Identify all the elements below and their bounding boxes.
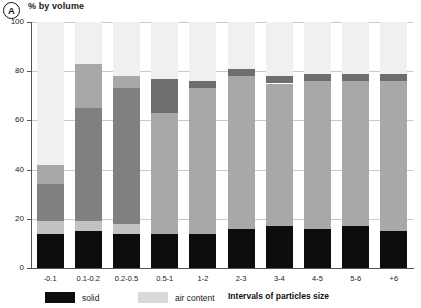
bar-segment <box>37 22 64 165</box>
y-tick-mark <box>27 268 32 269</box>
x-axis-title: Intervals of particles size <box>228 291 329 301</box>
bar-segment <box>75 22 102 64</box>
bar-segment <box>342 81 369 226</box>
bar-segment <box>228 229 255 268</box>
bar-column[interactable] <box>37 22 64 268</box>
y-tick-label: 40 <box>0 166 24 174</box>
bar-segment <box>113 88 140 223</box>
y-tick-label: 0 <box>0 264 24 272</box>
legend-swatch <box>138 292 168 303</box>
bar-segment <box>189 88 216 233</box>
bar-segment <box>304 22 331 74</box>
bar-segment <box>189 81 216 88</box>
x-tick-label: 1-2 <box>183 275 223 283</box>
bar-column[interactable] <box>151 22 178 268</box>
bar-segment <box>37 165 64 185</box>
y-tick-mark <box>27 170 32 171</box>
bar-segment <box>37 234 64 268</box>
bar-segment <box>380 81 407 231</box>
bar-segment <box>342 226 369 268</box>
x-tick-label: 2-3 <box>221 275 261 283</box>
x-tick-label: 5-6 <box>336 275 376 283</box>
bar-segment <box>189 22 216 81</box>
bar-segment <box>75 108 102 221</box>
y-tick-label: 100 <box>0 18 24 26</box>
bar-segment <box>75 231 102 268</box>
bar-column[interactable] <box>228 22 255 268</box>
bar-segment <box>266 22 293 76</box>
bar-segment <box>266 76 293 83</box>
bar-segment <box>380 74 407 81</box>
bar-segment <box>113 234 140 268</box>
y-tick-mark <box>27 219 32 220</box>
bar-segment <box>342 74 369 81</box>
bar-segment <box>304 74 331 81</box>
bar-column[interactable] <box>189 22 216 268</box>
bar-segment <box>228 76 255 229</box>
bar-segment <box>266 84 293 227</box>
bar-segment <box>151 113 178 234</box>
x-tick-label: +6 <box>374 275 414 283</box>
bar-segment <box>151 234 178 268</box>
legend-swatch <box>45 292 75 303</box>
bar-segment <box>304 81 331 229</box>
bar-column[interactable] <box>342 22 369 268</box>
bar-segment <box>266 226 293 268</box>
y-axis-title: % by volume <box>28 1 84 11</box>
legend-label: solid <box>82 293 99 303</box>
x-tick-label: -0.1 <box>30 275 70 283</box>
x-axis-line <box>31 268 414 269</box>
x-tick-label: 0.5-1 <box>145 275 185 283</box>
x-tick-label: 3-4 <box>259 275 299 283</box>
y-tick-label: 60 <box>0 116 24 124</box>
x-tick-label: 4-5 <box>298 275 338 283</box>
bar-column[interactable] <box>113 22 140 268</box>
chart-legend: solidair content <box>0 286 421 308</box>
legend-item[interactable]: air content <box>138 292 215 303</box>
bar-segment <box>113 22 140 76</box>
bar-segment <box>151 79 178 113</box>
bar-segment <box>75 221 102 231</box>
bar-column[interactable] <box>75 22 102 268</box>
bar-segment <box>37 221 64 233</box>
bar-segment <box>113 224 140 234</box>
bar-segment <box>380 22 407 74</box>
y-tick-label: 80 <box>0 67 24 75</box>
y-tick-mark <box>27 71 32 72</box>
legend-item[interactable]: solid <box>45 292 99 303</box>
y-tick-label: 20 <box>0 215 24 223</box>
bar-segment <box>113 76 140 88</box>
bar-segment <box>304 229 331 268</box>
bar-column[interactable] <box>266 22 293 268</box>
bar-column[interactable] <box>380 22 407 268</box>
x-tick-label: 0.2-0.5 <box>107 275 147 283</box>
bar-segment <box>228 22 255 69</box>
bar-segment <box>75 64 102 108</box>
plot-area <box>31 22 413 268</box>
bar-segment <box>380 231 407 268</box>
bar-segment <box>228 69 255 76</box>
y-tick-mark <box>27 22 32 23</box>
bar-column[interactable] <box>304 22 331 268</box>
bar-segment <box>189 234 216 268</box>
bar-segment <box>151 22 178 79</box>
x-tick-label: 0.1-0.2 <box>68 275 108 283</box>
y-tick-mark <box>27 120 32 121</box>
bar-segment <box>342 22 369 74</box>
legend-label: air content <box>175 293 215 303</box>
bar-segment <box>37 184 64 221</box>
